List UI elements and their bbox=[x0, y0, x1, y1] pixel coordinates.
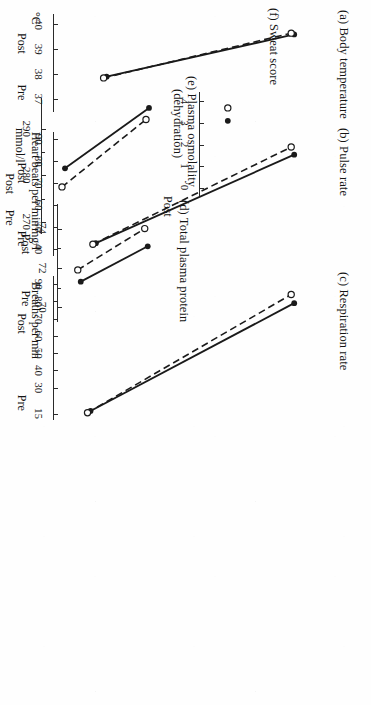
panel-f-tick-label: 2 bbox=[179, 142, 191, 148]
panel-f-title: (f) Sweat score bbox=[266, 8, 281, 85]
panel-b-marker-open-circle bbox=[288, 144, 294, 150]
panel-f-series bbox=[195, 92, 239, 226]
panel-e-category-pre: Pre bbox=[2, 210, 17, 226]
panel-b-marker-filled-circle bbox=[291, 152, 297, 158]
panel-c-marker-open-circle bbox=[84, 410, 90, 416]
panel-f-tick-label: 3 bbox=[179, 120, 191, 126]
panel-d-tick-label: 70 bbox=[37, 302, 49, 313]
panel-c-category-pre: Pre bbox=[14, 395, 29, 411]
panel-c-tick-label: 40 bbox=[33, 365, 45, 376]
panel-c-title: (c) Respiration rate bbox=[336, 272, 351, 370]
panel-e-axis-title: mmol/l bbox=[12, 128, 27, 163]
panel-c-tick-label: 15 bbox=[33, 408, 45, 419]
panel-d-marker-filled-circle bbox=[78, 279, 84, 285]
panel-f-tick-label: 0 bbox=[179, 185, 191, 191]
panel-e-tick-label: 270 bbox=[21, 213, 33, 230]
panel-b-title: (b) Pulse rate bbox=[336, 128, 351, 196]
panel-f-marker-open-circle bbox=[225, 105, 231, 111]
panel-a-tick-label: 39 bbox=[33, 44, 45, 55]
panel-f-sweat-score: (f) Sweat score 43210Post bbox=[187, 8, 283, 198]
panel-e-marker-filled-circle bbox=[62, 165, 68, 171]
panel-e-marker-open-circle bbox=[143, 116, 149, 122]
panel-e-marker-filled-circle bbox=[146, 105, 152, 111]
panel-f-marker-filled-circle bbox=[225, 118, 231, 124]
panel-e-solid-line bbox=[65, 108, 149, 168]
panel-d-tick-label: 72 bbox=[37, 262, 49, 273]
figure-rotation-wrapper: (a) Body temperature 40393837PrePost °C … bbox=[0, 0, 371, 705]
panel-d-category-pre: Pre bbox=[18, 290, 33, 306]
panel-a-category-post: Post bbox=[14, 33, 29, 54]
panel-d-marker-open-circle bbox=[75, 267, 81, 273]
panel-e-category-post: Post bbox=[2, 173, 17, 194]
scientific-figure: (a) Body temperature 40393837PrePost °C … bbox=[0, 0, 371, 705]
panel-e-title-line2: (dehydration) bbox=[171, 76, 185, 187]
panel-e-marker-open-circle bbox=[59, 184, 65, 190]
panel-c-marker-filled-circle bbox=[291, 300, 297, 306]
panel-c-tick-label: 30 bbox=[33, 382, 45, 393]
panel-f-tick-label: 4 bbox=[179, 99, 191, 105]
panel-c-marker-open-circle bbox=[288, 291, 294, 297]
panel-e-series bbox=[37, 98, 161, 264]
panel-a-title: (a) Body temperature bbox=[336, 10, 351, 119]
panel-a-marker-open-circle bbox=[288, 30, 294, 36]
panel-e-plot: 290280270PrePost bbox=[41, 98, 161, 234]
panel-f-category-post: Post bbox=[160, 196, 175, 217]
panel-a-axis-title: °C bbox=[28, 12, 43, 25]
panel-e-tick-label: 280 bbox=[21, 167, 33, 184]
panel-e-dashed-line bbox=[62, 120, 146, 187]
panel-f-plot: 43210Post bbox=[199, 92, 239, 196]
panel-f-tick-label: 1 bbox=[179, 163, 191, 169]
